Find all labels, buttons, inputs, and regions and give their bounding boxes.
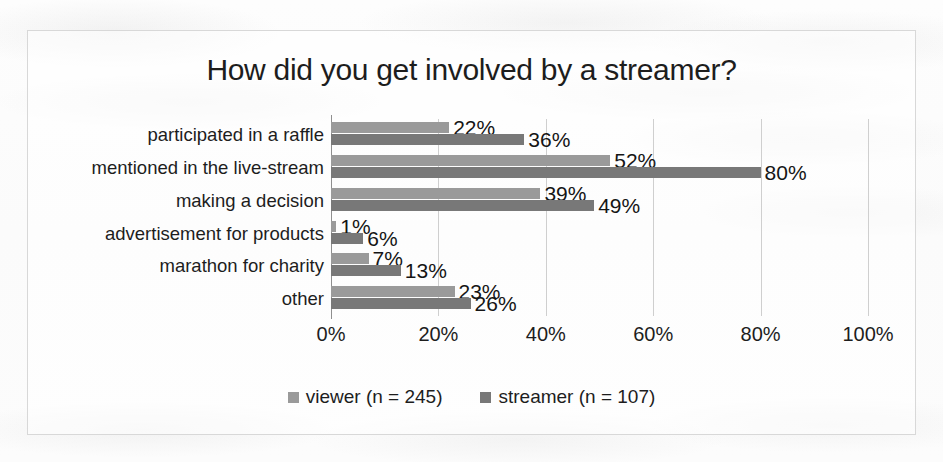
bar-row-streamer: 49% <box>331 200 640 211</box>
bar-group: 7%13% <box>331 250 868 283</box>
bar-streamer <box>331 200 594 211</box>
bar-streamer <box>331 167 761 178</box>
value-axis-tick-labels: 0%20%40%60%80%100% <box>331 323 868 351</box>
chart-legend: viewer (n = 245)streamer (n = 107) <box>28 386 915 408</box>
category-label: mentioned in the live-stream <box>92 152 324 185</box>
bar-viewer <box>331 253 369 264</box>
chart-title: How did you get involved by a streamer? <box>28 53 915 87</box>
bar-value-label: 6% <box>367 228 397 249</box>
bar-streamer <box>331 233 363 244</box>
bar-streamer <box>331 298 471 309</box>
bar-group: 23%26% <box>331 283 868 316</box>
bar-value-label: 49% <box>598 195 640 216</box>
bar-row-viewer: 7% <box>331 253 403 264</box>
bar-row-viewer: 39% <box>331 188 586 199</box>
bar-viewer <box>331 155 610 166</box>
bar-value-label: 26% <box>475 293 517 314</box>
legend-label: streamer (n = 107) <box>498 386 655 408</box>
x-axis-tick-label: 100% <box>842 323 893 346</box>
category-label: participated in a raffle <box>147 119 324 152</box>
bar-viewer <box>331 122 449 133</box>
category-label: advertisement for products <box>105 218 324 251</box>
bar-row-streamer: 80% <box>331 167 807 178</box>
category-label: other <box>282 283 324 316</box>
chart-container: How did you get involved by a streamer? … <box>27 30 916 435</box>
x-axis-tick-label: 0% <box>317 323 346 346</box>
bar-row-viewer: 52% <box>331 155 656 166</box>
bar-value-label: 36% <box>528 129 570 150</box>
bar-group: 52%80% <box>331 152 868 185</box>
bar-group: 39%49% <box>331 185 868 218</box>
x-axis-tick-label: 20% <box>418 323 458 346</box>
category-axis-labels: participated in a rafflementioned in the… <box>88 119 324 316</box>
bar-row-viewer: 1% <box>331 221 371 232</box>
bar-row-streamer: 13% <box>331 265 447 276</box>
legend-label: viewer (n = 245) <box>306 386 443 408</box>
legend-item-streamer[interactable]: streamer (n = 107) <box>480 386 655 408</box>
bar-group: 1%6% <box>331 218 868 251</box>
bar-row-streamer: 36% <box>331 134 570 145</box>
legend-swatch-icon <box>480 392 491 403</box>
bar-viewer <box>331 188 540 199</box>
gridline <box>868 119 869 316</box>
x-axis-tick-label: 60% <box>633 323 673 346</box>
bar-viewer <box>331 286 455 297</box>
legend-swatch-icon <box>288 392 299 403</box>
category-label: making a decision <box>176 185 324 218</box>
legend-item-viewer[interactable]: viewer (n = 245) <box>288 386 443 408</box>
bar-value-label: 13% <box>405 260 447 281</box>
bar-value-label: 80% <box>765 162 807 183</box>
bar-viewer <box>331 221 336 232</box>
bar-streamer <box>331 265 401 276</box>
plot-area: 22%36%52%80%39%49%1%6%7%13%23%26% <box>331 119 868 316</box>
bar-group: 22%36% <box>331 119 868 152</box>
bar-row-streamer: 26% <box>331 298 517 309</box>
x-axis-tick-label: 80% <box>741 323 781 346</box>
bar-row-streamer: 6% <box>331 233 398 244</box>
bar-row-viewer: 22% <box>331 122 495 133</box>
x-axis-tick-label: 40% <box>526 323 566 346</box>
category-label: marathon for charity <box>159 250 324 283</box>
bar-streamer <box>331 134 524 145</box>
